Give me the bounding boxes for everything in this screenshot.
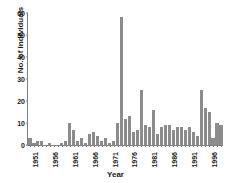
bar	[136, 130, 139, 145]
x-tick-mark	[217, 145, 218, 147]
x-tick-mark	[141, 145, 142, 147]
bar	[160, 127, 163, 145]
y-tick-label: 40	[17, 54, 25, 61]
y-tick-label: 50	[17, 32, 25, 39]
plot-inner	[28, 13, 223, 145]
bar	[120, 17, 123, 145]
x-tick-mark	[62, 145, 63, 147]
y-tick-mark	[26, 13, 28, 14]
x-tick-mark	[78, 145, 79, 147]
x-tick-mark	[197, 145, 198, 147]
x-tick-mark	[34, 145, 35, 147]
x-tick-mark	[94, 145, 95, 147]
y-tick-label: 30	[17, 76, 25, 83]
x-tick-mark	[153, 145, 154, 147]
x-tick-mark	[201, 145, 202, 147]
bar	[180, 127, 183, 145]
x-axis-title: Year	[0, 170, 231, 179]
y-tick-label: 60	[17, 10, 25, 17]
bar	[208, 112, 211, 145]
x-tick-label: 1956	[52, 152, 59, 168]
x-tick-mark	[82, 145, 83, 147]
x-tick-mark	[181, 145, 182, 147]
x-tick-mark	[98, 145, 99, 147]
bar	[148, 127, 151, 145]
bar	[80, 138, 83, 145]
bar	[204, 108, 207, 145]
x-tick-mark	[54, 145, 55, 147]
bar	[92, 132, 95, 145]
x-tick-mark	[205, 145, 206, 147]
x-tick-mark	[173, 145, 174, 147]
x-tick-mark	[58, 145, 59, 147]
x-tick-mark	[149, 145, 150, 147]
x-tick-mark	[213, 145, 214, 147]
bar	[156, 134, 159, 145]
x-tick-label: 1966	[92, 152, 99, 168]
x-tick-mark	[110, 145, 111, 147]
x-tick-mark	[106, 145, 107, 147]
x-tick-mark	[74, 145, 75, 147]
x-tick-mark	[90, 145, 91, 147]
y-tick-label: 10	[17, 120, 25, 127]
x-tick-label: 1996	[211, 152, 218, 168]
y-tick-mark	[26, 101, 28, 102]
y-tick-mark	[26, 79, 28, 80]
x-tick-label: 1951	[32, 152, 39, 168]
x-tick-mark	[129, 145, 130, 147]
bar	[176, 127, 179, 145]
y-tick-mark	[26, 145, 28, 146]
y-tick-mark	[26, 123, 28, 124]
x-tick-mark	[193, 145, 194, 147]
bar	[211, 138, 214, 145]
x-tick-mark	[145, 145, 146, 147]
bar	[104, 138, 107, 145]
x-tick-label: 1961	[72, 152, 79, 168]
bar	[188, 127, 191, 145]
x-tick-mark	[165, 145, 166, 147]
bar	[96, 136, 99, 145]
x-tick-mark	[221, 145, 222, 147]
x-tick-mark	[169, 145, 170, 147]
x-tick-mark	[122, 145, 123, 147]
y-tick-label: 0	[21, 142, 25, 149]
x-tick-mark	[133, 145, 134, 147]
bar	[88, 134, 91, 145]
bar	[219, 125, 222, 145]
bar	[215, 123, 218, 145]
bar	[196, 136, 199, 145]
bar	[184, 130, 187, 145]
bar	[168, 125, 171, 145]
x-tick-mark	[189, 145, 190, 147]
x-tick-mark	[102, 145, 103, 147]
bar	[132, 132, 135, 145]
x-tick-mark	[86, 145, 87, 147]
x-tick-mark	[50, 145, 51, 147]
x-tick-mark	[185, 145, 186, 147]
bar	[140, 90, 143, 145]
x-tick-label: 1971	[112, 152, 119, 168]
y-tick-label: 20	[17, 98, 25, 105]
x-tick-label: 1976	[131, 152, 138, 168]
x-tick-mark	[114, 145, 115, 147]
y-tick-mark	[26, 35, 28, 36]
x-tick-mark	[161, 145, 162, 147]
bar	[172, 130, 175, 145]
bar	[116, 123, 119, 145]
bar	[144, 125, 147, 145]
x-tick-mark	[126, 145, 127, 147]
bar	[68, 123, 71, 145]
x-tick-mark	[209, 145, 210, 147]
x-tick-mark	[42, 145, 43, 147]
bar	[28, 138, 31, 145]
x-tick-mark	[30, 145, 31, 147]
x-tick-mark	[70, 145, 71, 147]
x-tick-mark	[38, 145, 39, 147]
bar	[124, 119, 127, 145]
x-tick-mark	[137, 145, 138, 147]
bar	[152, 110, 155, 145]
bar	[72, 130, 75, 145]
x-tick-mark	[46, 145, 47, 147]
x-tick-label: 1986	[171, 152, 178, 168]
chart-figure: No. of Individuals 0102030405060 Year 19…	[0, 0, 231, 183]
